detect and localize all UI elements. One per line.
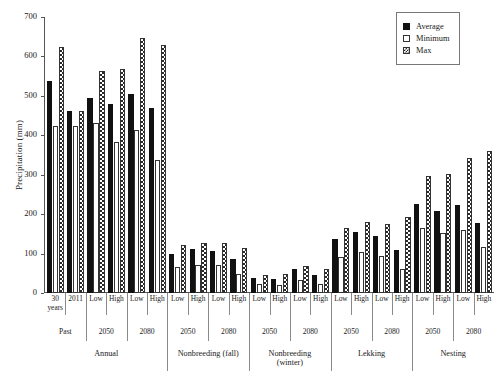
bar-minimum bbox=[338, 257, 343, 293]
bar-group bbox=[106, 17, 126, 293]
bar-max bbox=[201, 243, 206, 293]
bar-group bbox=[249, 17, 269, 293]
axis-separator bbox=[270, 293, 271, 315]
bar-average bbox=[230, 259, 235, 293]
bar-minimum bbox=[277, 285, 282, 293]
x-axis-scenario-label: High bbox=[229, 293, 249, 315]
bar-minimum bbox=[359, 252, 364, 293]
x-axis-scenario-label: High bbox=[433, 293, 453, 315]
x-axis-season-label: Nonbreeding (fall) bbox=[167, 341, 249, 371]
axis-separator bbox=[249, 293, 250, 315]
bar-max bbox=[467, 158, 472, 293]
x-axis-scenario-label: High bbox=[147, 293, 167, 315]
axis-separator bbox=[351, 293, 352, 315]
axis-separator bbox=[331, 341, 332, 371]
bar-average bbox=[312, 275, 317, 293]
bar-minimum bbox=[400, 269, 405, 293]
bar-minimum bbox=[481, 247, 486, 293]
y-axis-tick-mark bbox=[41, 293, 44, 294]
bar-group bbox=[127, 17, 147, 293]
axis-separator bbox=[331, 293, 332, 315]
x-axis-level-period: Past205020802050208020502080205020802050… bbox=[45, 315, 494, 341]
x-axis-scenario-label: Low bbox=[372, 293, 392, 315]
y-axis-tick-label: 200 bbox=[24, 208, 37, 218]
bar-minimum bbox=[73, 126, 78, 293]
y-axis-tick-mark bbox=[41, 214, 44, 215]
axis-separator bbox=[127, 293, 128, 315]
bar-average bbox=[47, 81, 52, 293]
axis-separator bbox=[474, 293, 475, 315]
y-axis-tick-mark bbox=[41, 254, 44, 255]
bar-average bbox=[67, 111, 72, 293]
y-axis-tick-label: 0 bbox=[33, 287, 37, 297]
bar-average bbox=[108, 104, 113, 293]
x-axis-scenario-label: Low bbox=[208, 293, 228, 315]
bar-average bbox=[251, 278, 256, 293]
y-axis-tick-label: 700 bbox=[24, 11, 37, 21]
legend-swatch-minimum-icon bbox=[403, 35, 410, 42]
x-axis-period-label: 2050 bbox=[331, 315, 372, 341]
axis-separator bbox=[331, 315, 332, 341]
x-axis-period-label: 2050 bbox=[249, 315, 290, 341]
axis-separator bbox=[290, 315, 291, 341]
x-axis-scenario-label: Low bbox=[453, 293, 473, 315]
bar-minimum bbox=[440, 233, 445, 293]
y-axis-title: Precipitation (mm) bbox=[14, 90, 24, 220]
y-axis-tick-label: 300 bbox=[24, 169, 37, 179]
x-axis-period-label: 2080 bbox=[208, 315, 249, 341]
bar-group bbox=[270, 17, 290, 293]
bar-average bbox=[475, 223, 480, 293]
x-axis-season-label: Nesting bbox=[412, 341, 494, 371]
bar-max bbox=[161, 45, 166, 293]
bar-average bbox=[455, 205, 460, 293]
bar-max bbox=[283, 274, 288, 293]
axis-separator bbox=[167, 341, 168, 371]
y-axis-tick-mark bbox=[41, 135, 44, 136]
bar-minimum bbox=[134, 130, 139, 293]
bar-average bbox=[292, 269, 297, 293]
bar-group bbox=[45, 17, 65, 293]
bar-max bbox=[365, 222, 370, 293]
x-axis-scenario-label: Low bbox=[167, 293, 187, 315]
y-axis-tick-mark bbox=[41, 175, 44, 176]
axis-separator bbox=[412, 293, 413, 315]
axis-separator bbox=[229, 293, 230, 315]
axis-separator bbox=[433, 293, 434, 315]
x-axis-scenario-label: High bbox=[188, 293, 208, 315]
bar-max bbox=[263, 275, 268, 293]
bar-average bbox=[394, 250, 399, 293]
bar-max bbox=[120, 69, 125, 293]
bar-group bbox=[208, 17, 228, 293]
x-axis-scenario-label: Low bbox=[127, 293, 147, 315]
y-axis-tick-label: 100 bbox=[24, 248, 37, 258]
axis-separator bbox=[453, 315, 454, 341]
bar-average bbox=[169, 254, 174, 293]
axis-separator bbox=[65, 293, 66, 315]
y-axis-tick-label: 400 bbox=[24, 129, 37, 139]
bar-minimum bbox=[236, 274, 241, 293]
bar-max bbox=[222, 243, 227, 293]
bar-average bbox=[87, 98, 92, 293]
x-axis-scenario-label: Low bbox=[331, 293, 351, 315]
bar-average bbox=[332, 239, 337, 293]
x-axis-scenario-label: High bbox=[310, 293, 330, 315]
x-axis-season-label: Lekking bbox=[331, 341, 413, 371]
x-axis-labels: 30years2011LowHighLowHighLowHighLowHighL… bbox=[45, 293, 494, 371]
bar-minimum bbox=[93, 123, 98, 293]
axis-separator bbox=[167, 293, 168, 315]
bar-max bbox=[59, 47, 64, 293]
axis-separator bbox=[412, 341, 413, 371]
x-axis-scenario-label: High bbox=[351, 293, 371, 315]
bar-average bbox=[353, 232, 358, 293]
bar-group bbox=[229, 17, 249, 293]
x-axis-scenario-label: Low bbox=[290, 293, 310, 315]
axis-separator bbox=[372, 315, 373, 341]
legend-swatch-average-icon bbox=[403, 23, 410, 30]
bar-minimum bbox=[195, 265, 200, 293]
x-axis-level-season: AnnualNonbreeding (fall)Nonbreeding(wint… bbox=[45, 341, 494, 371]
bar-group bbox=[372, 17, 392, 293]
axis-separator bbox=[392, 293, 393, 315]
y-axis-tick-label: 500 bbox=[24, 90, 37, 100]
y-axis-tick-mark bbox=[41, 17, 44, 18]
x-axis-period-label: Past bbox=[45, 315, 86, 341]
